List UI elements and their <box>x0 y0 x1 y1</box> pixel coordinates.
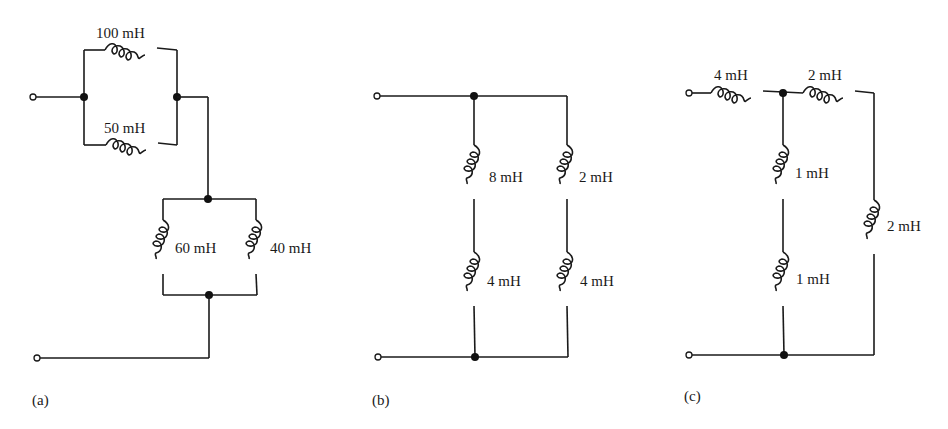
inductor-2mH-right <box>864 200 879 239</box>
label-40mH: 40 mH <box>270 240 311 256</box>
terminal-c-bottom <box>686 352 692 358</box>
label-50mH: 50 mH <box>104 120 145 136</box>
label-2mH-series: 2 mH <box>808 67 842 83</box>
label-1mH-upper: 1 mH <box>795 165 829 181</box>
panel-label-a: (a) <box>32 392 49 409</box>
label-8mH: 8 mH <box>489 169 523 185</box>
node-c2 <box>780 351 788 359</box>
inductor-100mH <box>105 44 145 60</box>
terminal-a-bottom <box>34 355 40 361</box>
node-b1 <box>470 92 478 100</box>
terminal-c-top <box>686 90 692 96</box>
terminal-a-top <box>30 94 36 100</box>
inductor-1mH-upper <box>773 145 788 184</box>
inductor-1mH-lower <box>773 252 788 291</box>
label-100mH: 100 mH <box>96 25 145 41</box>
label-60mH: 60 mH <box>175 240 216 256</box>
circuit-c: 4 mH 2 mH 1 mH 1 mH 2 mH (c) <box>684 67 921 405</box>
circuit-b: 8 mH 2 mH 4 mH 4 mH (b) <box>372 92 614 409</box>
panel-label-b: (b) <box>372 392 390 409</box>
label-4mH-series: 4 mH <box>714 67 748 83</box>
label-4mH-right: 4 mH <box>580 273 614 289</box>
inductor-60mH <box>153 220 168 259</box>
node-b2 <box>471 353 479 361</box>
terminal-b-top <box>374 93 380 99</box>
inductor-4mH-series <box>711 87 751 103</box>
inductor-8mH <box>464 145 479 184</box>
terminal-b-bottom <box>375 354 381 360</box>
inductor-circuits-figure: 100 mH 50 mH 60 mH 40 mH (a) 8 mH 2 mH 4… <box>0 0 948 429</box>
label-1mH-lower: 1 mH <box>796 271 830 287</box>
circuit-a: 100 mH 50 mH 60 mH 40 mH (a) <box>30 25 311 409</box>
node-a1 <box>80 93 88 101</box>
label-2mH: 2 mH <box>579 169 613 185</box>
node-c1 <box>779 89 787 97</box>
inductor-4mH-left <box>464 252 479 291</box>
label-2mH-right: 2 mH <box>887 218 921 234</box>
inductor-2mH <box>557 145 572 184</box>
inductor-50mH <box>106 139 146 155</box>
inductor-40mH <box>246 220 261 259</box>
label-4mH-left: 4 mH <box>487 273 521 289</box>
panel-label-c: (c) <box>684 388 701 405</box>
node-a3 <box>204 195 212 203</box>
inductor-2mH-series <box>803 87 843 103</box>
inductor-4mH-right <box>557 252 572 291</box>
